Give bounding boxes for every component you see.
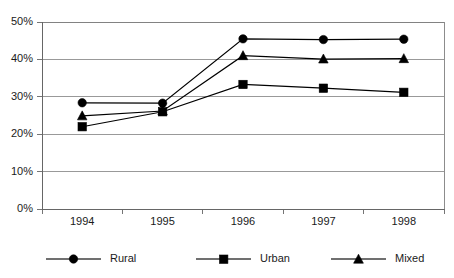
x-tick-label-1996: 1996: [231, 215, 255, 227]
circle-marker-icon: [400, 35, 408, 43]
legend-item-rural[interactable]: Rural: [46, 252, 136, 264]
chart-legend: Rural Urban Mixed: [46, 252, 424, 264]
x-axis-tick-labels: 1994 1995 1996 1997 1998: [70, 215, 416, 227]
legend-label-urban: Urban: [260, 252, 290, 264]
legend-item-urban[interactable]: Urban: [196, 252, 290, 264]
circle-marker-icon: [78, 99, 86, 107]
circle-marker-icon: [319, 35, 327, 43]
y-tick-label-10: 10%: [11, 165, 33, 177]
x-tick-label-1994: 1994: [70, 215, 94, 227]
x-tick-label-1997: 1997: [311, 215, 335, 227]
x-tick-label-1998: 1998: [392, 215, 416, 227]
y-tick-label-20: 20%: [11, 127, 33, 139]
y-axis-tick-labels: 50% 40% 30% 20% 10% 0%: [11, 15, 33, 214]
y-tick-label-30: 30%: [11, 90, 33, 102]
legend-item-mixed[interactable]: Mixed: [331, 252, 424, 264]
legend-label-mixed: Mixed: [395, 252, 424, 264]
square-marker-icon: [319, 84, 327, 92]
y-tick-label-0: 0%: [17, 202, 33, 214]
line-chart: 50% 40% 30% 20% 10% 0% 1994 1995 1996 19…: [0, 0, 454, 278]
chart-canvas: 50% 40% 30% 20% 10% 0% 1994 1995 1996 19…: [0, 0, 454, 278]
square-marker-icon: [220, 255, 228, 263]
square-marker-icon: [400, 88, 408, 96]
y-tick-marks: [37, 22, 42, 209]
legend-label-rural: Rural: [110, 252, 136, 264]
x-tick-marks: [42, 209, 444, 214]
circle-marker-icon: [69, 255, 77, 263]
x-tick-label-1995: 1995: [150, 215, 174, 227]
y-tick-label-40: 40%: [11, 52, 33, 64]
y-tick-label-50: 50%: [11, 15, 33, 27]
circle-marker-icon: [239, 35, 247, 43]
square-marker-icon: [239, 80, 247, 88]
square-marker-icon: [78, 123, 86, 131]
